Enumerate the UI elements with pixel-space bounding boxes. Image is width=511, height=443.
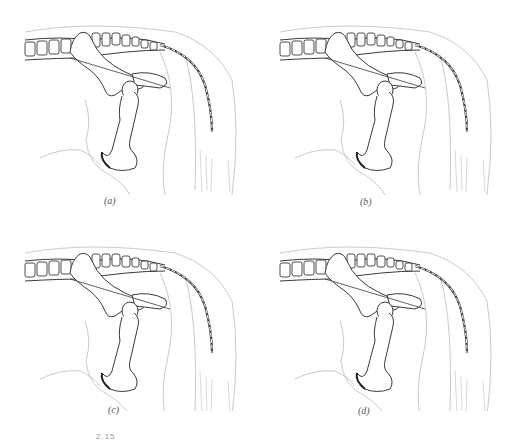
caption-c: (c) [108, 404, 119, 415]
panel-b: (b) [255, 0, 510, 215]
figure-number: 2.15 [96, 432, 116, 441]
panel-a: (a) [0, 0, 255, 215]
panel-d: (d) [255, 221, 510, 436]
panel-c: (c) [0, 221, 255, 436]
skeleton-diagram-a [0, 0, 255, 200]
caption-d: (d) [358, 405, 370, 416]
skeleton-diagram-b [255, 0, 510, 200]
skeleton-diagram-d [255, 221, 510, 411]
caption-b: (b) [360, 196, 372, 207]
caption-a: (a) [104, 195, 116, 206]
skeleton-diagram-c [0, 221, 255, 411]
